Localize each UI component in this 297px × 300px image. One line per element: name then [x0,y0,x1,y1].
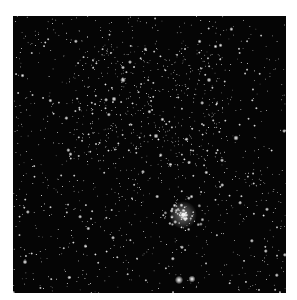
star-field-image [13,16,286,293]
star-field-canvas [13,16,286,293]
